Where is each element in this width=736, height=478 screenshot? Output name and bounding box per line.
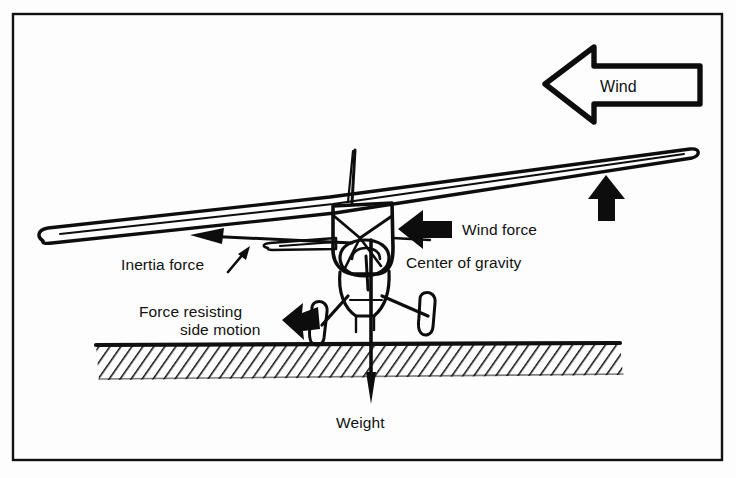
center-of-gravity-label: Center of gravity xyxy=(406,254,522,271)
force-resisting-label-line2: side motion xyxy=(180,321,260,338)
side-resisting-force-arrow xyxy=(282,303,320,340)
ground-hatching xyxy=(90,338,630,386)
diagram-canvas: Wind Wind force Center of gravity Inerti… xyxy=(0,0,736,478)
inertia-force-label: Inertia force xyxy=(121,256,204,273)
antenna-mast-icon xyxy=(348,150,355,203)
weight-label: Weight xyxy=(336,414,385,431)
wing-lift-arrow xyxy=(588,175,625,221)
wind-label: Wind xyxy=(600,78,637,95)
wind-force-label: Wind force xyxy=(462,221,537,238)
force-resisting-label-line1: Force resisting xyxy=(139,303,242,320)
wind-force-arrow xyxy=(398,210,452,249)
aircraft-wind-force-diagram: Wind Wind force Center of gravity Inerti… xyxy=(0,0,736,478)
